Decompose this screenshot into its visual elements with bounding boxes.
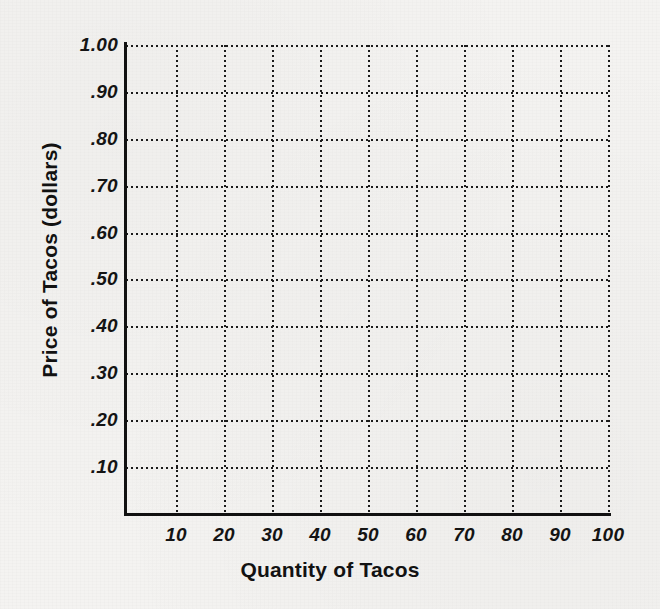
- gridline-horizontal: [126, 45, 608, 47]
- y-tick-label: .30: [91, 362, 118, 384]
- y-tick-label: .60: [91, 222, 118, 244]
- y-tick-label: .40: [91, 315, 118, 337]
- x-tick-label: 60: [405, 524, 427, 546]
- gridline-horizontal: [126, 139, 608, 141]
- x-axis-line: [124, 513, 611, 516]
- x-tick-label: 50: [357, 524, 379, 546]
- gridline-horizontal: [126, 279, 608, 281]
- gridline-horizontal: [126, 186, 608, 188]
- gridline-horizontal: [126, 233, 608, 235]
- gridline-horizontal: [126, 373, 608, 375]
- y-tick-label: 1.00: [80, 34, 118, 56]
- y-tick-label: .70: [91, 175, 118, 197]
- x-axis-tick-labels: 102030405060708090100: [0, 524, 660, 552]
- x-tick-label: 30: [261, 524, 283, 546]
- x-axis-title: Quantity of Tacos: [0, 558, 660, 582]
- y-tick-label: .50: [91, 268, 118, 290]
- x-tick-label: 100: [592, 524, 625, 546]
- x-tick-label: 20: [213, 524, 235, 546]
- y-tick-label: .80: [91, 128, 118, 150]
- gridline-horizontal: [126, 420, 608, 422]
- y-tick-label: .20: [91, 409, 118, 431]
- y-tick-label: .10: [91, 456, 118, 478]
- y-tick-label: .90: [91, 81, 118, 103]
- gridline-horizontal: [126, 92, 608, 94]
- gridline-horizontal: [126, 326, 608, 328]
- x-tick-label: 10: [165, 524, 187, 546]
- x-tick-label: 80: [501, 524, 523, 546]
- y-axis-title: Price of Tacos (dollars): [38, 60, 62, 460]
- chart-figure: .10.20.30.40.50.60.70.80.901.00 10203040…: [0, 0, 660, 609]
- x-tick-label: 90: [549, 524, 571, 546]
- x-tick-label: 70: [453, 524, 475, 546]
- gridline-horizontal: [126, 467, 608, 469]
- x-tick-label: 40: [309, 524, 331, 546]
- plot-area: [126, 45, 608, 513]
- y-axis-line: [124, 42, 127, 516]
- gridline-vertical: [608, 45, 610, 513]
